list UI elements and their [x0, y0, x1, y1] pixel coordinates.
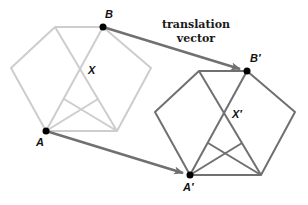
point-A: [43, 128, 50, 135]
vector-arrow-B: [103, 27, 240, 69]
point-A-prime: [187, 172, 194, 179]
original-diagonal-left: [55, 27, 117, 131]
vector-label-line1: translation: [162, 18, 230, 31]
image-diagonal-right: [190, 71, 247, 175]
image-figure: [155, 71, 295, 175]
image-hexagon-outline: [155, 71, 295, 175]
original-diagonal-right: [46, 27, 103, 131]
label-X-prime: X′: [231, 108, 243, 120]
image-diagonal-left: [199, 71, 261, 175]
point-B: [100, 24, 107, 31]
label-B: B: [105, 8, 113, 20]
original-figure: [11, 27, 151, 131]
vector-label-line2: vector: [176, 32, 216, 45]
label-A: A: [35, 136, 44, 148]
translation-arrows: [46, 27, 240, 173]
label-A-prime: A′: [182, 181, 195, 193]
label-X: X: [87, 64, 96, 76]
translation-diagram: B A X B′ A′ X′ translation vector: [0, 0, 308, 205]
label-B-prime: B′: [250, 52, 262, 64]
point-B-prime: [244, 68, 251, 75]
vector-arrow-A: [46, 131, 183, 173]
original-hexagon-outline: [11, 27, 151, 131]
